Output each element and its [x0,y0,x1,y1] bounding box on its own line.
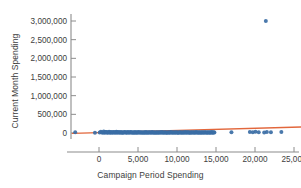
x-tick-label: 15,000 [203,155,228,164]
y-tick-label: 3,000,000 [31,17,68,26]
data-point [257,130,261,134]
data-point [265,130,269,134]
y-tick-label: 2,000,000 [31,54,68,63]
scatter-chart: 0500,0001,000,0001,500,0002,000,0002,500… [0,0,301,188]
data-point [229,130,233,134]
y-tick-label: 2,500,000 [31,36,68,45]
data-point [279,130,283,134]
y-tick-label: 0 [62,129,67,138]
plot-area: 0500,0001,000,0001,500,0002,000,0002,500… [0,0,301,188]
y-axis-title: Current Month Spending [10,11,20,151]
data-points [73,19,301,135]
data-point [264,19,268,23]
data-point [93,131,97,135]
x-tick-label: 5,000 [128,155,149,164]
x-axis: 05,00010,00015,00020,00025,000 [67,147,301,164]
x-axis-title: Campaign Period Spending [0,170,301,180]
data-point [73,130,77,134]
x-tick-label: 10,000 [164,155,189,164]
y-tick-label: 1,000,000 [31,92,68,101]
x-tick-label: 20,000 [242,155,267,164]
data-point [212,131,216,135]
y-tick-label: 1,500,000 [31,73,68,82]
y-axis: 0500,0001,000,0001,500,0002,000,0002,500… [31,14,76,139]
data-point [269,130,273,134]
x-tick-label: 25,000 [281,155,301,164]
x-tick-label: 0 [97,155,102,164]
y-tick-label: 500,000 [37,110,67,119]
